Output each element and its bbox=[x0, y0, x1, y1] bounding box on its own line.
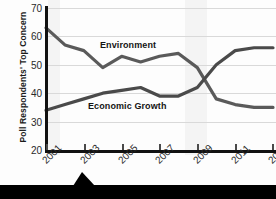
series-label-environment: Environment bbox=[100, 40, 156, 50]
chart-container: Poll Respondents' Top Concern 70 60 50 4… bbox=[0, 0, 276, 199]
series-lines bbox=[0, 0, 276, 199]
y-axis-line bbox=[45, 6, 48, 152]
series-label-economic-growth: Economic Growth bbox=[88, 101, 167, 111]
bottom-banner bbox=[0, 185, 276, 199]
banner-triangle-tab bbox=[73, 172, 95, 186]
